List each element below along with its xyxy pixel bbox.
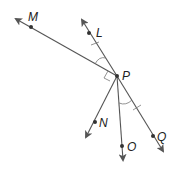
- point-O: [120, 144, 124, 148]
- geometry-diagram: M L P N O Q: [0, 0, 181, 176]
- label-N: N: [99, 116, 108, 130]
- label-O: O: [127, 140, 136, 154]
- label-M: M: [28, 10, 38, 24]
- point-M: [29, 25, 33, 29]
- label-P: P: [122, 69, 130, 83]
- angle-arc-MPL: [95, 58, 106, 64]
- point-P: [115, 74, 119, 78]
- label-Q: Q: [157, 130, 166, 144]
- point-Q: [151, 134, 155, 138]
- right-angle-mark: [104, 71, 110, 81]
- point-N: [93, 120, 97, 124]
- label-L: L: [96, 26, 103, 40]
- angle-arc-OPQ: [119, 100, 132, 104]
- point-L: [87, 31, 91, 35]
